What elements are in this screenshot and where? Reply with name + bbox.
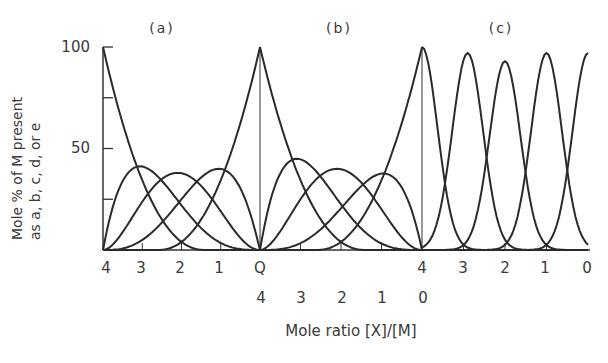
x-tick-label: 1 <box>540 261 550 276</box>
curve-a-b <box>103 166 260 250</box>
x-tick-label-b: 1 <box>377 291 387 306</box>
panel-label-a: (a) <box>149 20 175 36</box>
x-tick-label: 0 <box>582 261 592 276</box>
x-tick-label: 4 <box>417 261 427 276</box>
x-tick-label-b: 4 <box>256 291 266 306</box>
y-axis-title-line2: as a, b, c, d, or e <box>26 97 44 240</box>
y-tick-label-100: 100 <box>50 40 90 55</box>
x-tick-label: 2 <box>175 261 185 276</box>
curve-c-d <box>422 53 588 250</box>
curves <box>103 47 588 250</box>
y-axis-title: Mole % of M present as a, b, c, d, or e <box>8 97 44 240</box>
curve-c-a <box>422 47 588 250</box>
y-axis-title-line1: Mole % of M present <box>8 97 26 240</box>
x-tick-label: 2 <box>500 261 510 276</box>
curve-c-e <box>422 53 588 250</box>
y-tick-label-50: 50 <box>50 141 90 156</box>
x-tick-label: 3 <box>136 261 146 276</box>
x-tick-label: 1 <box>214 261 224 276</box>
curve-a-d <box>103 169 260 250</box>
x-tick-label: 3 <box>458 261 468 276</box>
curve-b-b <box>260 159 422 250</box>
x-tick-label: Q <box>254 261 266 276</box>
x-tick-label-b: 2 <box>337 291 347 306</box>
curve-c-c <box>422 61 588 250</box>
curve-c-b <box>422 53 588 250</box>
curve-b-a <box>260 47 422 250</box>
curve-a-a <box>103 47 260 250</box>
x-tick-label-b: 3 <box>296 291 306 306</box>
x-axis-title: Mole ratio [X]/[M] <box>285 322 416 340</box>
x-tick-label: 4 <box>101 261 111 276</box>
curve-b-d <box>260 174 422 251</box>
curve-a-e <box>103 47 260 250</box>
curve-b-e <box>260 47 422 250</box>
x-tick-label-b: 0 <box>418 291 428 306</box>
chart-plot-area <box>0 0 608 363</box>
curve-a-c <box>103 173 260 250</box>
panel-label-c: (c) <box>489 20 514 36</box>
panel-label-b: (b) <box>326 20 352 36</box>
